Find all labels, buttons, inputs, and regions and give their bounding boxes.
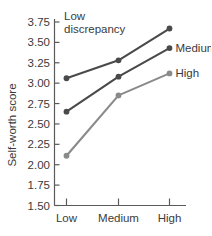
series-endpoint-label: Medium <box>176 42 212 54</box>
x-tick-mark-group <box>67 199 170 206</box>
y-axis-title: Self-worth score <box>6 83 18 166</box>
data-point-marker <box>64 153 70 159</box>
y-tick-label: 1.75 <box>28 179 50 191</box>
data-point-marker <box>167 70 173 76</box>
data-point-marker <box>64 75 70 81</box>
x-category-label: Low <box>56 212 78 224</box>
series-line <box>67 29 170 79</box>
y-tick-label: 3.00 <box>28 77 50 89</box>
x-category-label: High <box>158 212 182 224</box>
line-chart: Self-worth score 3.753.503.253.002.752.5… <box>0 0 211 236</box>
data-point-marker <box>116 74 122 80</box>
data-point-marker <box>116 57 122 63</box>
chart-container: Self-worth score 3.753.503.253.002.752.5… <box>0 0 211 236</box>
y-tick-label: 2.25 <box>28 138 50 150</box>
y-tick-label: 2.75 <box>28 98 50 110</box>
y-tick-mark-group <box>55 22 60 206</box>
y-tick-label: 3.50 <box>28 36 50 48</box>
data-point-marker <box>64 109 70 115</box>
data-point-marker <box>167 45 173 51</box>
x-category-label-group: LowMediumHigh <box>56 212 181 224</box>
y-tick-label: 3.75 <box>28 16 50 28</box>
data-point-marker <box>116 93 122 99</box>
series-label-group: LowdiscrepancyMediumHigh <box>64 10 211 79</box>
series-annotation-label: Low <box>64 10 86 22</box>
y-tick-label: 3.25 <box>28 57 50 69</box>
y-tick-label: 2.00 <box>28 159 50 171</box>
y-tick-label: 2.50 <box>28 118 50 130</box>
x-category-label: Medium <box>98 212 139 224</box>
series-endpoint-label: High <box>176 67 200 79</box>
series-group <box>64 26 173 159</box>
y-axis-title-label: Self-worth score <box>6 83 18 166</box>
series-line <box>67 73 170 155</box>
data-point-marker <box>167 26 173 32</box>
y-tick-label-group: 3.753.503.253.002.752.502.252.001.751.50 <box>28 16 50 212</box>
series-annotation-label: discrepancy <box>64 23 126 35</box>
y-tick-label: 1.50 <box>28 200 50 212</box>
